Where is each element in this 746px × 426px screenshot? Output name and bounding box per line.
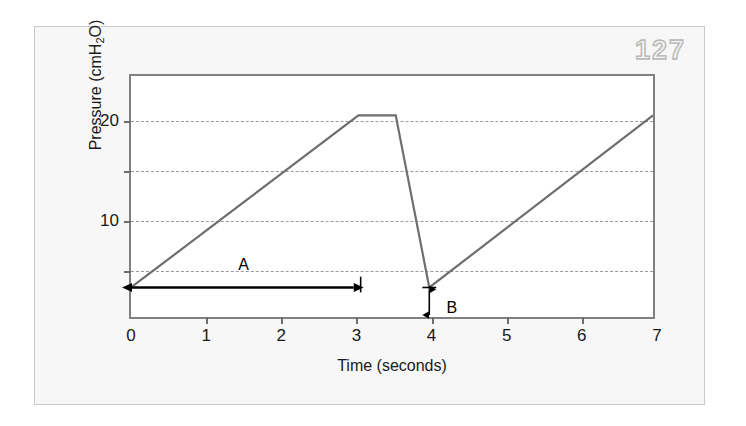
y-tick — [124, 271, 131, 273]
x-tick — [206, 317, 208, 324]
y-axis-title-prefix: Pressure (cmH — [87, 44, 104, 151]
x-tick-label: 5 — [502, 326, 511, 346]
figure-card: 127 1020 01234567 — [34, 26, 705, 405]
page-number: 127 — [635, 35, 686, 66]
x-axis-title: Time (seconds) — [129, 357, 655, 375]
y-axis-title-suffix: O) — [87, 20, 104, 38]
x-tick — [582, 317, 584, 324]
annotation-arrows — [131, 76, 653, 317]
y-tick-label: 10 — [100, 211, 119, 231]
plot-frame: 1020 01234567 — [129, 74, 655, 319]
x-tick-label: 6 — [577, 326, 586, 346]
y-tick — [124, 221, 131, 223]
x-tick-label: 1 — [201, 326, 210, 346]
annotation-label-b: B — [447, 299, 458, 317]
x-tick-label: 3 — [352, 326, 361, 346]
y-tick — [124, 171, 131, 173]
x-tick — [507, 317, 509, 324]
x-tick-label: 2 — [277, 326, 286, 346]
y-tick — [124, 121, 131, 123]
x-tick — [432, 317, 434, 324]
x-tick — [281, 317, 283, 324]
plot-area: 1020 01234567 — [131, 76, 653, 317]
x-tick-label: 0 — [126, 326, 135, 346]
annotation-label-a: A — [238, 256, 249, 274]
x-tick-label: 4 — [427, 326, 436, 346]
y-axis-title-subscript: 2 — [94, 37, 106, 43]
x-tick-label: 7 — [652, 326, 661, 346]
x-tick — [356, 317, 358, 324]
y-axis-title: Pressure (cmH2O) — [85, 0, 107, 208]
